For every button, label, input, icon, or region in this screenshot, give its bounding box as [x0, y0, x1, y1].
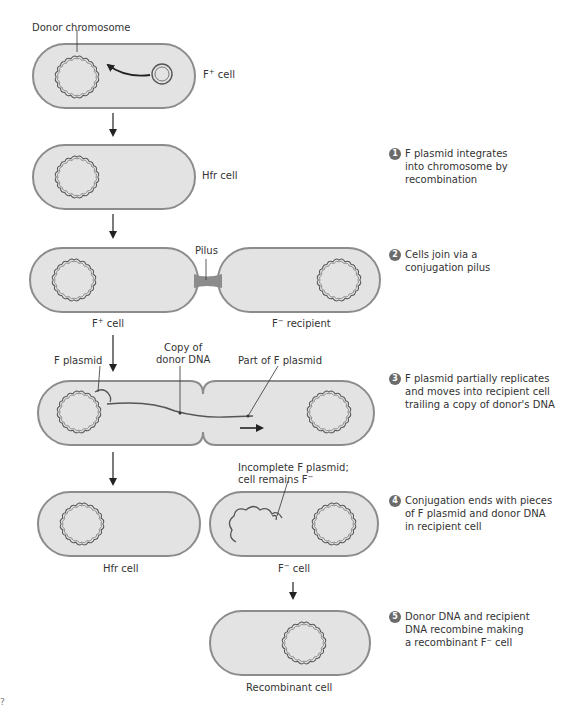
- step-number-badge: 5: [389, 611, 401, 623]
- step-3: 3 F plasmid partially replicates and mov…: [389, 372, 565, 411]
- label-f-plus-cell-2: F+ cell: [92, 318, 124, 330]
- label-line: donor DNA: [156, 354, 210, 366]
- step-text: F plasmid integrates into chromosome by …: [405, 147, 517, 186]
- step-number-badge: 3: [389, 373, 401, 385]
- step-1: 1 F plasmid integrates into chromosome b…: [389, 147, 517, 186]
- label-text: cell: [104, 318, 124, 329]
- label-text: cell remains F: [238, 474, 308, 485]
- step-text: Cells join via a conjugation pilus: [405, 248, 505, 274]
- label-text: recipient: [284, 318, 331, 329]
- label-f-plus-cell-1: F+ cell: [203, 69, 235, 81]
- pilus-joined-cells: [30, 248, 380, 312]
- step-2: 2 Cells join via a conjugation pilus: [389, 248, 505, 274]
- label-pilus: Pilus: [195, 245, 218, 257]
- step-number-badge: 1: [389, 148, 401, 160]
- label-hfr-cell-2: Hfr cell: [103, 563, 139, 575]
- label-f-minus-cell: F− cell: [278, 563, 310, 575]
- label-f-plasmid: F plasmid: [54, 355, 102, 367]
- label-part-of-f-plasmid: Part of F plasmid: [238, 355, 322, 367]
- label-copy-of-donor-dna: Copy ofdonor DNA: [156, 342, 210, 366]
- recombinant-cell: [210, 611, 370, 675]
- step-4: 4 Conjugation ends with pieces of F plas…: [389, 494, 555, 533]
- f-plus-cell-1: [33, 30, 195, 108]
- dna-transfer-cells: [38, 366, 374, 445]
- step-5: 5 Donor DNA and recipient DNA recombine …: [389, 610, 530, 649]
- hfr-cell-2: [38, 492, 200, 556]
- step-text: Donor DNA and recipient DNA recombine ma…: [405, 610, 530, 649]
- label-recombinant-cell: Recombinant cell: [246, 682, 332, 694]
- label-text: cell: [290, 563, 310, 574]
- label-line: Incomplete F plasmid;: [238, 462, 349, 474]
- label-sup: −: [308, 473, 314, 481]
- step-text: Conjugation ends with pieces of F plasmi…: [405, 494, 555, 533]
- pilus-icon: [194, 274, 222, 288]
- step-text: F plasmid partially replicates and moves…: [405, 372, 565, 411]
- corner-mark: ?: [0, 697, 5, 707]
- label-text: cell: [215, 69, 235, 80]
- f-minus-cell: [210, 481, 378, 556]
- label-line: cell remains F−: [238, 474, 349, 486]
- step-number-badge: 4: [389, 495, 401, 507]
- label-donor-chromosome: Donor chromosome: [32, 22, 131, 34]
- hfr-cell-1: [33, 145, 195, 209]
- label-incomplete-f-plasmid: Incomplete F plasmid;cell remains F−: [238, 462, 349, 486]
- step-number-badge: 2: [389, 249, 401, 261]
- label-line: Copy of: [156, 342, 210, 354]
- label-f-minus-recipient: F− recipient: [272, 318, 331, 330]
- label-hfr-cell-1: Hfr cell: [202, 170, 238, 182]
